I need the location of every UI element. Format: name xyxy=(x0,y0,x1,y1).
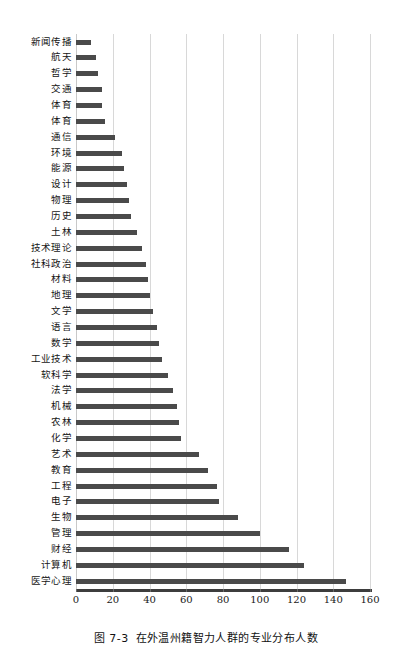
tick-mark-0 xyxy=(76,589,77,592)
bar-row xyxy=(76,351,370,368)
bar-row xyxy=(76,367,370,384)
bar xyxy=(76,499,219,504)
tick-mark-40 xyxy=(150,589,151,592)
bar xyxy=(76,484,217,489)
figure-caption: 图 7-3在外温州籍智力人群的专业分布人数 xyxy=(0,629,412,645)
bar xyxy=(76,293,150,298)
category-label: 机械 xyxy=(0,401,72,411)
tick-mark-140 xyxy=(333,589,334,592)
bar xyxy=(76,246,142,251)
bar-row xyxy=(76,573,370,590)
category-label: 物理 xyxy=(0,195,72,205)
category-label: 历史 xyxy=(0,211,72,221)
bar xyxy=(76,71,98,76)
bar-row xyxy=(76,319,370,336)
bar-row xyxy=(76,256,370,273)
category-label: 设计 xyxy=(0,179,72,189)
category-label: 社科政治 xyxy=(0,259,72,269)
bar xyxy=(76,309,153,314)
bar-row xyxy=(76,304,370,321)
bar-row xyxy=(76,208,370,225)
bar-row xyxy=(76,288,370,305)
bar xyxy=(76,166,124,171)
bar-row xyxy=(76,383,370,400)
bar-row xyxy=(76,446,370,463)
bar xyxy=(76,119,105,124)
bar-row xyxy=(76,272,370,289)
tick-mark-20 xyxy=(113,589,114,592)
bar xyxy=(76,230,137,235)
tick-label-160: 160 xyxy=(350,594,390,605)
bar xyxy=(76,55,96,60)
bar xyxy=(76,198,129,203)
category-label: 土林 xyxy=(0,227,72,237)
bar-row xyxy=(76,193,370,210)
bar-row xyxy=(76,224,370,241)
figure-caption-text: 在外温州籍智力人群的专业分布人数 xyxy=(136,632,318,645)
tick-label-80: 80 xyxy=(203,594,243,605)
bar-row xyxy=(76,415,370,432)
bar xyxy=(76,357,162,362)
bar xyxy=(76,262,146,267)
bar xyxy=(76,547,289,552)
bar-row xyxy=(76,510,370,527)
bar-row xyxy=(76,34,370,51)
bar xyxy=(76,325,157,330)
bar-row xyxy=(76,399,370,416)
bar-row xyxy=(76,50,370,67)
bar xyxy=(76,452,199,457)
bar xyxy=(76,420,179,425)
category-label: 能源 xyxy=(0,163,72,173)
bar-row xyxy=(76,240,370,257)
category-label: 环境 xyxy=(0,148,72,158)
bar-row xyxy=(76,97,370,114)
tick-mark-120 xyxy=(297,589,298,592)
bar-row xyxy=(76,526,370,543)
gridline-160 xyxy=(370,34,371,589)
bar xyxy=(76,388,173,393)
tick-label-0: 0 xyxy=(56,594,96,605)
bar-row xyxy=(76,335,370,352)
category-label: 体育 xyxy=(0,116,72,126)
tick-mark-60 xyxy=(186,589,187,592)
category-label: 电子 xyxy=(0,496,72,506)
category-label: 哲学 xyxy=(0,68,72,78)
bar xyxy=(76,436,181,441)
bar xyxy=(76,341,159,346)
bar xyxy=(76,182,127,187)
category-label: 体育 xyxy=(0,100,72,110)
bar-row xyxy=(76,541,370,558)
bar-row xyxy=(76,113,370,130)
tick-mark-160 xyxy=(370,589,371,592)
tick-label-100: 100 xyxy=(240,594,280,605)
bar xyxy=(76,87,102,92)
bar-row xyxy=(76,66,370,83)
category-label: 文学 xyxy=(0,306,72,316)
category-label: 工程 xyxy=(0,481,72,491)
category-label: 技术理论 xyxy=(0,243,72,253)
tick-mark-100 xyxy=(260,589,261,592)
category-label: 材料 xyxy=(0,274,72,284)
category-label: 医学心理 xyxy=(0,576,72,586)
bar xyxy=(76,135,115,140)
tick-label-140: 140 xyxy=(313,594,353,605)
x-axis-line xyxy=(76,589,372,592)
bar xyxy=(76,40,91,45)
bar xyxy=(76,579,346,584)
bar xyxy=(76,563,304,568)
tick-label-20: 20 xyxy=(93,594,133,605)
figure-number: 图 7-3 xyxy=(94,632,128,645)
category-label: 财经 xyxy=(0,544,72,554)
category-label: 软科学 xyxy=(0,370,72,380)
category-label: 通信 xyxy=(0,132,72,142)
bar xyxy=(76,531,260,536)
bar xyxy=(76,277,148,282)
tick-label-60: 60 xyxy=(166,594,206,605)
bar-row xyxy=(76,462,370,479)
bar-row xyxy=(76,494,370,511)
bar xyxy=(76,468,208,473)
category-label: 农林 xyxy=(0,417,72,427)
category-label: 数学 xyxy=(0,338,72,348)
bar xyxy=(76,103,102,108)
bar xyxy=(76,214,131,219)
